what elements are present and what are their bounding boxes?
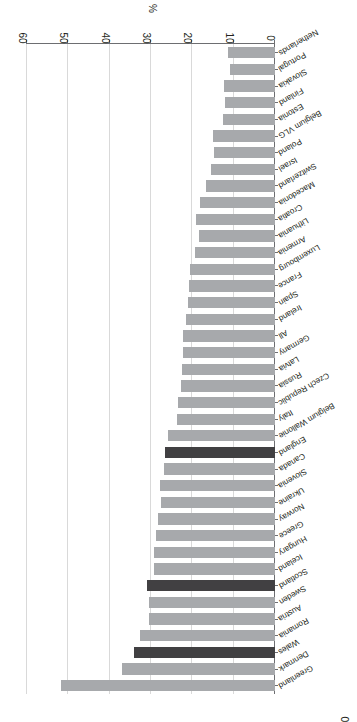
bar (165, 447, 275, 458)
category-tick (275, 602, 278, 603)
value-tick-label: 0 (265, 35, 275, 41)
bar-row: Hungary (27, 544, 275, 561)
category-tick (275, 652, 278, 653)
category-tick (275, 385, 278, 386)
bar-row: Poland (27, 144, 275, 161)
bar (225, 97, 275, 108)
bar-row: Romania (27, 627, 275, 644)
bar (140, 630, 275, 641)
bar (149, 613, 275, 624)
bar (168, 430, 275, 441)
category-tick (275, 169, 278, 170)
bar (196, 214, 275, 225)
bar-row: Greenland (27, 677, 275, 694)
bar (200, 197, 275, 208)
bar-row: Slovenia (27, 477, 275, 494)
value-tick-label: 40 (100, 32, 110, 43)
bar (213, 130, 275, 141)
bar (149, 597, 275, 608)
bar-row: Finland (27, 94, 275, 111)
category-tick (275, 235, 278, 236)
bar-row: Spain (27, 294, 275, 311)
bar-row: Portugal (27, 61, 275, 78)
bar (161, 497, 275, 508)
bar (156, 530, 275, 541)
category-tick (275, 585, 278, 586)
category-tick (275, 635, 278, 636)
category-tick (275, 469, 278, 470)
plot-area: GreenlandDenmarkWalesRomaniaAustriaSwede… (27, 44, 275, 694)
value-tick-label: 10 (224, 32, 234, 43)
bar (206, 180, 275, 191)
category-tick (275, 269, 278, 270)
bar (224, 80, 275, 91)
bar-row: Denmark (27, 661, 275, 678)
bar (147, 580, 275, 591)
category-tick (275, 669, 278, 670)
bar (199, 230, 275, 241)
value-axis: 0102030405060 % (27, 0, 275, 44)
bar (186, 314, 275, 325)
bar-row: Slovakia (27, 78, 275, 95)
bar-row: Estonia (27, 111, 275, 128)
category-tick (275, 369, 278, 370)
bar-series: GreenlandDenmarkWalesRomaniaAustriaSwede… (27, 44, 275, 694)
bar-row: Switzerland (27, 178, 275, 195)
bar-row: Latvia (27, 361, 275, 378)
bar-row: Scotland (27, 577, 275, 594)
bar-row: Germany (27, 344, 275, 361)
bar-row: Macedonia (27, 194, 275, 211)
bar (195, 247, 275, 258)
category-tick (275, 136, 278, 137)
bar (177, 414, 275, 425)
value-tick-label: 50 (58, 32, 68, 43)
bar-row: Russia (27, 378, 275, 395)
bar-row: Belgium Wallonie (27, 428, 275, 445)
bar-row: Wales (27, 644, 275, 661)
category-tick (275, 335, 278, 336)
category-tick (275, 119, 278, 120)
bar (223, 114, 275, 125)
bar-row: Belgium VLG (27, 128, 275, 145)
bar (122, 663, 275, 674)
bar (214, 147, 275, 158)
category-tick (275, 102, 278, 103)
bar-row: Ukraine (27, 494, 275, 511)
bar-row: Israel (27, 161, 275, 178)
bar-row: Austria (27, 611, 275, 628)
bar-row: Armenia (27, 244, 275, 261)
bar (189, 280, 275, 291)
category-tick (275, 435, 278, 436)
bar-row: England (27, 444, 275, 461)
bar-row: Italy (27, 411, 275, 428)
category-tick (275, 319, 278, 320)
bar (183, 330, 275, 341)
value-axis-title: % (147, 4, 158, 13)
category-tick (275, 535, 278, 536)
bar (183, 347, 275, 358)
bar-row: Luxembourg (27, 261, 275, 278)
bar-row: Netherlands (27, 44, 275, 61)
bar-row: Lithuania (27, 228, 275, 245)
value-tick-label: 30 (141, 32, 151, 43)
category-tick (275, 202, 278, 203)
bar-row: Greece (27, 527, 275, 544)
bar (211, 164, 275, 175)
bar (158, 513, 275, 524)
bar (188, 297, 275, 308)
bar-row: Canada (27, 461, 275, 478)
bar (178, 397, 275, 408)
source-note: Source: Authors' own analysis of HBS stu… (341, 716, 352, 722)
bar (228, 47, 275, 58)
category-tick (275, 419, 278, 420)
bar (230, 64, 275, 75)
category-label: All (277, 328, 289, 340)
bar (164, 463, 275, 474)
bar (154, 563, 275, 574)
chart-figure: GreenlandDenmarkWalesRomaniaAustriaSwede… (0, 0, 357, 722)
bar-row: All (27, 328, 275, 345)
category-tick (275, 302, 278, 303)
bar-row: Iceland (27, 561, 275, 578)
category-tick (275, 86, 278, 87)
bar (134, 647, 275, 658)
